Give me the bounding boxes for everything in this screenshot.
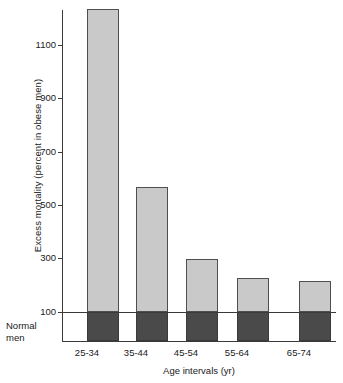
- bar-upper-25-34: [87, 9, 119, 312]
- y-tick-label-700: 700: [22, 147, 56, 157]
- baseline-caption-line2: men: [6, 332, 58, 344]
- x-tick-label-45-54: 45-54: [158, 347, 214, 358]
- bar-35-44[interactable]: [136, 187, 168, 341]
- bar-upper-65-74: [299, 281, 331, 312]
- bar-65-74[interactable]: [299, 281, 331, 341]
- y-tick-label-100: 100: [22, 307, 56, 317]
- x-tick-label-65-74: 65-74: [271, 347, 327, 358]
- bar-lower-25-34: [87, 312, 119, 341]
- bar-upper-35-44: [136, 187, 168, 312]
- x-tick-label-35-44: 35-44: [108, 347, 164, 358]
- x-axis-title: Age intervals (yr): [62, 365, 336, 376]
- bar-lower-45-54: [186, 312, 218, 341]
- y-tick-label-300: 300: [22, 253, 56, 263]
- baseline-caption: Normal men: [6, 320, 58, 344]
- bar-upper-45-54: [186, 259, 218, 312]
- bar-lower-35-44: [136, 312, 168, 341]
- x-tick-label-25-34: 25-34: [59, 347, 115, 358]
- y-tick-label-900: 900: [22, 93, 56, 103]
- bar-45-54[interactable]: [186, 259, 218, 341]
- y-tick-label-500: 500: [22, 200, 56, 210]
- bar-lower-55-64: [237, 312, 269, 341]
- bar-lower-65-74: [299, 312, 331, 341]
- bar-25-34[interactable]: [87, 9, 119, 341]
- bar-55-64[interactable]: [237, 278, 269, 341]
- reference-line-100: [62, 312, 336, 313]
- chart-figure: Excess mortality (percent in obese men) …: [0, 0, 343, 383]
- plot-area: [62, 0, 336, 342]
- bar-upper-55-64: [237, 278, 269, 312]
- y-tick-label-1100: 1100: [22, 40, 56, 50]
- x-tick-label-55-64: 55-64: [209, 347, 265, 358]
- baseline-caption-line1: Normal: [6, 320, 58, 332]
